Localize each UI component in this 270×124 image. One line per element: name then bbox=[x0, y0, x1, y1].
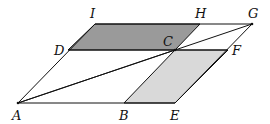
label-h: H bbox=[194, 6, 207, 21]
label-g: G bbox=[248, 6, 258, 21]
point-c bbox=[174, 49, 177, 52]
label-a: A bbox=[11, 108, 21, 123]
shaded-parallelogram-befc bbox=[124, 50, 228, 103]
label-d: D bbox=[53, 43, 65, 58]
label-i: I bbox=[89, 6, 96, 21]
label-b: B bbox=[118, 108, 129, 123]
point-g bbox=[251, 23, 254, 26]
point-a bbox=[17, 102, 20, 105]
label-e: E bbox=[169, 108, 180, 123]
geometry-diagram: I H G D C F A B E bbox=[0, 0, 270, 124]
label-f: F bbox=[231, 43, 242, 58]
diagram-canvas: I H G D C F A B E bbox=[0, 0, 270, 124]
shaded-parallelogram-dchi bbox=[68, 24, 200, 50]
label-c: C bbox=[163, 34, 173, 49]
